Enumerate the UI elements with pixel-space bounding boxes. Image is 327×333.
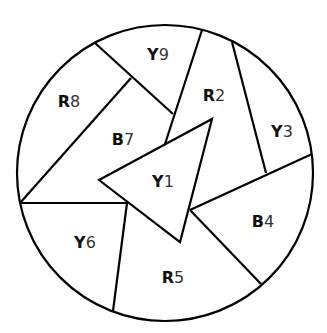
color-letter: Y bbox=[74, 233, 86, 252]
region-number: 8 bbox=[70, 92, 80, 111]
region-label-b7: B7 bbox=[112, 132, 134, 148]
boundary-b4-r5 bbox=[190, 210, 261, 284]
region-label-r8: R8 bbox=[58, 94, 81, 110]
region-number: 4 bbox=[264, 212, 274, 231]
region-label-y3: Y3 bbox=[271, 124, 293, 140]
color-letter: Y bbox=[147, 45, 159, 64]
region-number: 3 bbox=[283, 122, 293, 141]
region-label-r5: R5 bbox=[162, 270, 185, 286]
region-number: 2 bbox=[215, 86, 225, 105]
boundary-b4-top bbox=[190, 154, 312, 210]
region-label-b4: B4 bbox=[252, 214, 274, 230]
region-label-y9: Y9 bbox=[147, 47, 169, 63]
color-letter: Y bbox=[271, 122, 283, 141]
region-number: 9 bbox=[159, 45, 169, 64]
region-label-y1: Y1 bbox=[152, 174, 174, 190]
color-letter: Y bbox=[152, 172, 164, 191]
region-number: 5 bbox=[174, 268, 184, 287]
map-coloring-diagram: Y1 R2 Y3 B4 R5 Y6 B7 R8 Y9 bbox=[0, 0, 327, 333]
color-letter: R bbox=[203, 86, 215, 105]
color-letter: R bbox=[162, 268, 174, 287]
color-letter: R bbox=[58, 92, 70, 111]
boundary-y6-r5 bbox=[113, 203, 127, 311]
region-label-y6: Y6 bbox=[74, 235, 96, 251]
region-number: 1 bbox=[164, 172, 174, 191]
color-letter: B bbox=[252, 212, 264, 231]
region-label-r2: R2 bbox=[203, 88, 226, 104]
color-letter: B bbox=[112, 130, 124, 149]
region-number: 6 bbox=[86, 233, 96, 252]
region-number: 7 bbox=[124, 130, 134, 149]
